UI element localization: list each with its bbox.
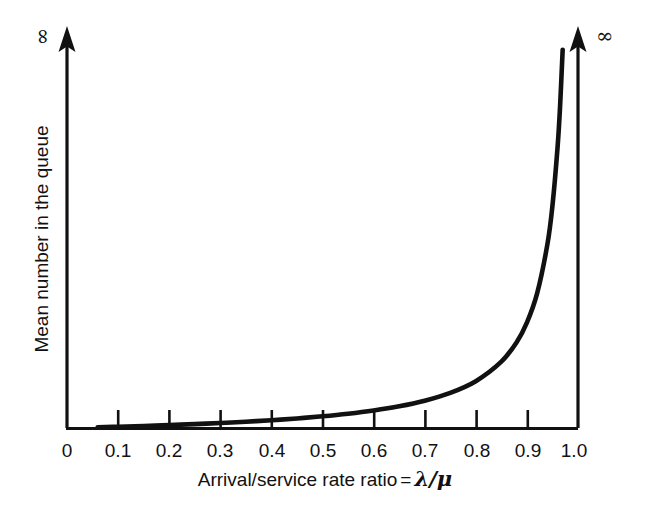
- mu-symbol: μ: [437, 466, 452, 491]
- x-tick-label-3: 0.3: [200, 441, 240, 460]
- x-axis-title: Arrival/service rate ratio=λ/μ: [0, 466, 650, 491]
- x-axis-title-equals: =: [397, 469, 414, 490]
- lambda-symbol: λ: [414, 466, 429, 491]
- queue-length-curve: [98, 50, 563, 428]
- infinity-label-right-asymptote: ∞: [596, 26, 614, 47]
- x-tick-label-1: 0.1: [98, 441, 138, 460]
- x-tick-label-9: 0.9: [508, 441, 548, 460]
- x-tick-label-10: 1.0: [554, 441, 594, 460]
- x-tick-label-8: 0.8: [457, 441, 497, 460]
- y-axis-title: Mean number in the queue: [31, 111, 53, 367]
- x-axis-title-text: Arrival/service rate ratio: [198, 469, 398, 490]
- queueing-theory-chart: 0 0.1 0.2 0.3 0.4 0.5 0.6 0.7 0.8 0.9 1.…: [0, 0, 650, 528]
- x-tick-label-5: 0.5: [303, 441, 343, 460]
- x-tick-label-6: 0.6: [354, 441, 394, 460]
- right-asymptote-line: [570, 26, 587, 428]
- infinity-label-y-axis: ∞: [32, 28, 53, 46]
- slash-symbol: /: [429, 466, 437, 491]
- x-tick-label-0: 0: [47, 441, 87, 460]
- x-tick-label-4: 0.4: [252, 441, 292, 460]
- y-axis-line: [59, 26, 76, 428]
- x-tick-label-7: 0.7: [405, 441, 445, 460]
- x-tick-label-2: 0.2: [149, 441, 189, 460]
